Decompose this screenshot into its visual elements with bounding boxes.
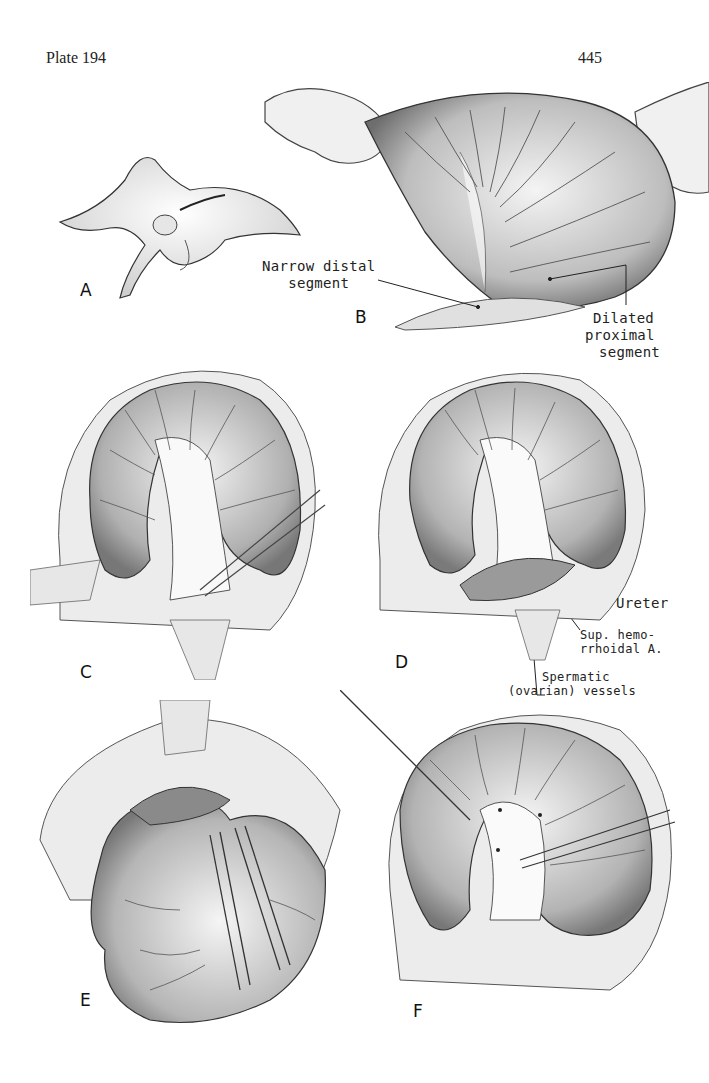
panel-c-illustration: C [30, 360, 330, 680]
vessel-ligation-icon [340, 690, 709, 1040]
colon-clamps-icon [30, 700, 350, 1040]
callout-sup-hemorrhoidal-artery: Sup. hemo- rrhoidal A. [580, 628, 663, 656]
panel-letter-f: F [413, 1001, 423, 1021]
panel-letter-e: E [80, 990, 91, 1010]
retroperitoneum-icon [360, 360, 660, 670]
plate-title: Plate 194 [46, 49, 106, 67]
panel-letter-d: D [395, 652, 408, 672]
panel-letter-a: A [80, 280, 92, 300]
panel-e-illustration: E [30, 700, 350, 1040]
page-header: Plate 194 445 [0, 0, 709, 80]
callout-narrow-distal-segment: Narrow distal segment [262, 258, 375, 292]
callout-ureter: Ureter [616, 595, 668, 612]
panel-d-illustration: D [360, 360, 660, 670]
colon-mesentery-icon [30, 360, 330, 680]
panel-f-illustration: F [340, 690, 709, 1040]
panel-letter-c: C [80, 662, 92, 682]
callout-dilated-proximal-segment: Dilated proximal segment [585, 310, 660, 361]
panel-letter-b: B [355, 307, 367, 327]
page-number: 445 [578, 49, 602, 67]
